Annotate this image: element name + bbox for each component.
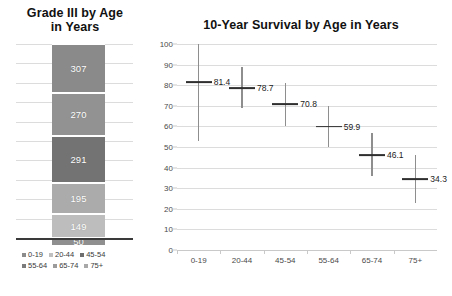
y-axis-tick-mark xyxy=(171,208,177,209)
right-gridline xyxy=(177,229,437,230)
legend-item-0-19[interactable]: 0-19 xyxy=(22,250,43,259)
data-point-value-label: 46.1 xyxy=(387,150,404,160)
data-point-value-label: 81.4 xyxy=(214,77,231,87)
legend-label: 65-74 xyxy=(59,261,78,270)
y-axis-tick-mark xyxy=(171,229,177,230)
stacked-bar-segment-label: 307 xyxy=(71,63,87,74)
legend-item-55-64[interactable]: 55-64 xyxy=(22,261,47,270)
left-chart-legend: 0-1920-4445-5455-6465-7475+ xyxy=(22,250,142,272)
stacked-bar-segment[interactable]: 195 xyxy=(52,183,105,214)
data-point-value-label: 34.3 xyxy=(430,174,447,184)
data-point-value-label: 70.8 xyxy=(300,99,317,109)
data-point-marker xyxy=(359,154,385,156)
data-point-marker xyxy=(316,126,342,128)
right-gridline xyxy=(177,188,437,189)
right-x-axis-line xyxy=(177,250,437,251)
legend-label: 20-44 xyxy=(55,250,74,259)
x-axis-tick-label: 20-44 xyxy=(232,256,252,265)
right-gridline xyxy=(177,209,437,210)
x-axis-tick-label: 45-54 xyxy=(275,256,295,265)
legend-item-45-54[interactable]: 45-54 xyxy=(80,250,105,259)
stacked-bar-segment-label: 195 xyxy=(71,193,87,204)
stacked-bar-segment-label: 149 xyxy=(71,221,87,232)
legend-label: 55-64 xyxy=(28,261,47,270)
stacked-bar-segment[interactable]: 270 xyxy=(52,93,105,136)
grade-iii-chart-panel: Grade III by Age in Years 30727029119514… xyxy=(0,0,150,296)
stacked-bar-segment-label: 270 xyxy=(71,109,87,120)
stacked-bar-segment[interactable]: 149 xyxy=(52,214,105,238)
left-x-axis-line xyxy=(16,238,133,240)
legend-label: 45-54 xyxy=(86,250,105,259)
legend-row: 0-1920-4445-54 xyxy=(22,250,142,259)
y-axis-tick-mark xyxy=(171,126,177,127)
survival-chart-panel: 10-Year Survival by Age in Years 0102030… xyxy=(150,0,452,296)
right-chart-title: 10-Year Survival by Age in Years xyxy=(150,18,452,32)
right-gridline xyxy=(177,147,437,148)
x-axis-tick-label: 75+ xyxy=(409,256,423,265)
right-gridline xyxy=(177,126,437,127)
data-point-marker xyxy=(272,103,298,105)
stacked-bar-segment[interactable]: 307 xyxy=(52,44,105,93)
data-point-value-label: 78.7 xyxy=(257,83,274,93)
data-point-marker xyxy=(229,87,255,89)
stacked-bar[interactable]: 30727029119514950 xyxy=(52,44,105,238)
right-gridline xyxy=(177,44,437,45)
data-point-marker xyxy=(402,178,428,180)
data-point-value-label: 59.9 xyxy=(344,122,361,132)
y-axis-tick-mark xyxy=(171,64,177,65)
x-axis-tick-label: 65-74 xyxy=(362,256,382,265)
left-chart-title-line1: Grade III by Age xyxy=(4,6,146,20)
legend-label: 75+ xyxy=(90,261,103,270)
legend-swatch-icon xyxy=(84,264,88,268)
x-axis-tick-label: 55-64 xyxy=(318,256,338,265)
left-plot-area: 30727029119514950 xyxy=(16,44,133,238)
legend-item-75plus[interactable]: 75+ xyxy=(84,261,103,270)
x-axis-tick-label: 0-19 xyxy=(191,256,207,265)
legend-swatch-icon xyxy=(22,253,26,257)
data-point-marker xyxy=(186,81,212,83)
left-chart-title: Grade III by Age in Years xyxy=(4,6,146,34)
screenshot-root: Grade III by Age in Years 30727029119514… xyxy=(0,0,452,296)
legend-label: 0-19 xyxy=(28,250,43,259)
legend-item-65-74[interactable]: 65-74 xyxy=(53,261,78,270)
y-axis-tick-mark xyxy=(171,44,177,45)
y-axis-tick-mark xyxy=(171,105,177,106)
legend-row: 55-6465-7475+ xyxy=(22,261,142,270)
left-chart-title-line2: in Years xyxy=(4,20,146,34)
legend-item-20-44[interactable]: 20-44 xyxy=(49,250,74,259)
right-gridline xyxy=(177,168,437,169)
stacked-bar-segment[interactable]: 291 xyxy=(52,136,105,183)
legend-swatch-icon xyxy=(53,264,57,268)
right-plot-area: 0102030405060708090100 81.478.770.859.94… xyxy=(177,44,437,250)
y-axis-tick-mark xyxy=(171,147,177,148)
y-axis-tick-mark xyxy=(171,188,177,189)
legend-swatch-icon xyxy=(22,264,26,268)
stacked-bar-segment-label: 291 xyxy=(71,154,87,165)
right-gridline xyxy=(177,65,437,66)
legend-swatch-icon xyxy=(49,253,53,257)
legend-swatch-icon xyxy=(80,253,84,257)
y-axis-tick-mark xyxy=(171,167,177,168)
y-axis-tick-mark xyxy=(171,85,177,86)
error-bar xyxy=(198,44,199,141)
